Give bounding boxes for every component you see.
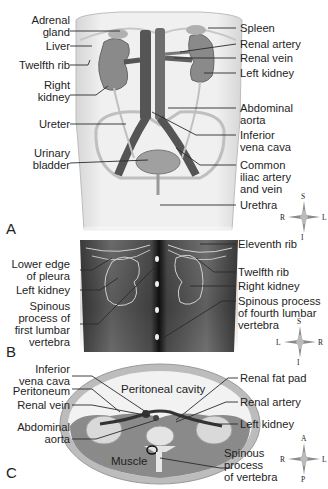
- compass-rose-a: S I R L: [282, 195, 326, 239]
- label-abdominal-aorta-c: Abdominal aorta: [17, 421, 70, 445]
- label-line: Adrenal: [31, 14, 70, 26]
- label-line: of vertebra: [224, 471, 277, 483]
- compass-right: L: [322, 213, 327, 222]
- label-line: Renal vein: [17, 399, 70, 411]
- label-line: vena cava: [240, 141, 291, 153]
- label-line: Right kidney: [238, 280, 300, 292]
- label-peritoneal-cavity: Peritoneal cavity: [121, 383, 205, 395]
- label-line: gland: [31, 26, 70, 38]
- label-line: Urethra: [240, 199, 277, 211]
- compass-left: R: [280, 213, 285, 222]
- compass-bottom: I: [297, 358, 300, 367]
- compass-rose-b: S I L R: [278, 320, 322, 364]
- label-renal-vein-c: Renal vein: [17, 399, 70, 411]
- label-line: bladder: [33, 159, 70, 171]
- label-line: Left kidney: [16, 284, 70, 296]
- label-line: Urinary: [33, 147, 70, 159]
- label-renal-vein: Renal vein: [240, 52, 293, 64]
- label-line: Spinous process: [238, 295, 321, 307]
- label-renal-fat-pad: Renal fat pad: [240, 372, 307, 384]
- label-eleventh-rib: Eleventh rib: [238, 238, 297, 250]
- label-line: Peritoneum: [13, 385, 70, 397]
- compass-bottom: I: [301, 233, 304, 242]
- label-line: and vein: [240, 183, 291, 195]
- label-line: Renal artery: [240, 396, 301, 408]
- label-line: Common: [240, 159, 291, 171]
- label-spinous-process-vertebra: Spinous process of vertebra: [224, 447, 277, 483]
- label-twelfth-rib-b: Twelfth rib: [238, 266, 289, 278]
- label-line: Spleen: [240, 22, 275, 34]
- label-right-kidney-b: Right kidney: [238, 280, 300, 292]
- label-line: Left kidney: [240, 418, 294, 430]
- label-line: Spinous: [224, 447, 277, 459]
- panel-letter-b: B: [6, 343, 16, 360]
- label-line: Ureter: [39, 118, 70, 130]
- compass-star-icon: [278, 320, 322, 364]
- label-liver: Liver: [46, 40, 70, 52]
- label-urethra: Urethra: [240, 199, 277, 211]
- label-line: Renal fat pad: [240, 372, 307, 384]
- label-line: of fourth lumbar: [238, 307, 321, 319]
- compass-top: S: [297, 317, 301, 326]
- panel-letter-a: A: [6, 220, 16, 237]
- panel-letter-c: C: [6, 464, 17, 481]
- label-spinous-first-lumbar: Spinous process of first lumbar vertebra: [15, 300, 70, 348]
- label-line: first lumbar: [15, 324, 70, 336]
- label-right-kidney: Right kidney: [38, 79, 70, 103]
- label-left-kidney-b: Left kidney: [16, 284, 70, 296]
- compass-left: R: [280, 455, 285, 464]
- compass-rose-c: A P R L: [282, 437, 326, 481]
- compass-top: A: [301, 434, 306, 443]
- label-line: Abdominal: [240, 102, 293, 114]
- label-line: Twelfth rib: [238, 266, 289, 278]
- label-muscle: Muscle: [111, 455, 147, 467]
- compass-right: L: [322, 455, 327, 464]
- label-line: process: [224, 459, 277, 471]
- label-line: Eleventh rib: [238, 238, 297, 250]
- label-common-iliac: Common iliac artery and vein: [240, 159, 291, 195]
- label-line: Inferior: [240, 129, 291, 141]
- label-line: aorta: [17, 433, 70, 445]
- compass-top: S: [301, 192, 305, 201]
- label-twelfth-rib: Twelfth rib: [19, 59, 70, 71]
- label-line: process of: [15, 312, 70, 324]
- label-line: Twelfth rib: [19, 59, 70, 71]
- label-line: kidney: [38, 91, 70, 103]
- label-peritoneum: Peritoneum: [13, 385, 70, 397]
- label-left-kidney: Left kidney: [240, 67, 294, 79]
- label-adrenal-gland: Adrenal gland: [31, 14, 70, 38]
- compass-bottom: P: [301, 475, 305, 484]
- label-ivc-c: Inferior vena cava: [19, 363, 70, 387]
- label-line: Right: [38, 79, 70, 91]
- compass-right: R: [318, 338, 323, 347]
- label-spleen: Spleen: [240, 22, 275, 34]
- label-line: aorta: [240, 114, 293, 126]
- label-inferior-vena-cava: Inferior vena cava: [240, 129, 291, 153]
- panel-a-art: [76, 12, 246, 232]
- label-lower-edge-pleura: Lower edge of pleura: [12, 258, 70, 282]
- panel-b-art: [80, 240, 238, 352]
- label-line: Renal artery: [240, 38, 301, 50]
- label-left-kidney-c: Left kidney: [240, 418, 294, 430]
- label-ureter: Ureter: [39, 118, 70, 130]
- label-line: iliac artery: [240, 171, 291, 183]
- compass-left: L: [276, 338, 281, 347]
- label-line: Liver: [46, 40, 70, 52]
- label-renal-artery-c: Renal artery: [240, 396, 301, 408]
- label-line: Left kidney: [240, 67, 294, 79]
- label-urinary-bladder: Urinary bladder: [33, 147, 70, 171]
- compass-star-icon: [282, 195, 326, 239]
- label-abdominal-aorta: Abdominal aorta: [240, 102, 293, 126]
- label-line: Inferior: [19, 363, 70, 375]
- label-line: Renal vein: [240, 52, 293, 64]
- label-line: Abdominal: [17, 421, 70, 433]
- label-line: of pleura: [12, 270, 70, 282]
- label-renal-artery: Renal artery: [240, 38, 301, 50]
- label-line: vertebra: [15, 336, 70, 348]
- label-line: Lower edge: [12, 258, 70, 270]
- label-line: Spinous: [15, 300, 70, 312]
